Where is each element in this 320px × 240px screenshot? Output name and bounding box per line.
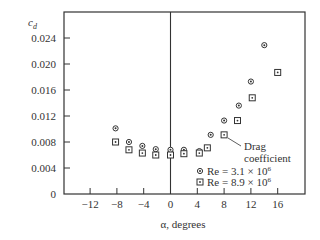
y-tick-label: 0.004 xyxy=(31,162,56,174)
data-point xyxy=(126,139,131,144)
data-point xyxy=(140,143,145,148)
data-point xyxy=(221,132,227,138)
y-tick-label: 0.008 xyxy=(31,136,56,148)
y-axis-title: cd xyxy=(28,16,38,31)
x-tick-label: −12 xyxy=(81,198,98,210)
circle-dot-marker-icon xyxy=(197,168,202,173)
x-axis: −12−8−40481216 xyxy=(81,188,283,210)
legend-label: Re = 8.9 × 106 xyxy=(207,176,271,188)
y-tick-label: 0.024 xyxy=(31,32,56,44)
legend-item-re-8.9: Re = 8.9 × 106 xyxy=(197,176,271,188)
y-tick-label: 0.012 xyxy=(31,110,56,122)
data-point xyxy=(262,43,267,48)
data-point xyxy=(153,147,158,152)
data-point xyxy=(249,95,255,101)
data-point xyxy=(235,118,241,124)
y-tick-label: 0.020 xyxy=(31,58,56,70)
series-circle-dot xyxy=(113,43,267,154)
data-point xyxy=(196,150,202,156)
data-point xyxy=(275,69,281,75)
data-point xyxy=(168,152,174,158)
x-axis-title: α, degrees xyxy=(161,218,206,230)
x-tick-label: 8 xyxy=(221,198,227,210)
x-tick-label: 0 xyxy=(168,198,174,210)
y-tick-label: 0.016 xyxy=(31,84,56,96)
drag-coefficient-chart: 00.0040.0080.0120.0160.0200.024 −12−8−40… xyxy=(0,0,320,240)
y-tick-label: 0 xyxy=(51,188,57,200)
data-point xyxy=(113,139,119,145)
legend: Re = 3.1 × 106 Re = 8.9 × 106 xyxy=(197,165,271,188)
data-point xyxy=(222,118,227,123)
annotation-line-1: Drag xyxy=(244,140,266,152)
data-point xyxy=(204,145,210,151)
drag-coefficient-annotation: Drag coefficient xyxy=(228,138,291,164)
data-point xyxy=(126,147,132,153)
data-point xyxy=(139,150,145,156)
data-point xyxy=(236,103,241,108)
x-tick-label: 4 xyxy=(195,198,201,210)
data-point xyxy=(248,79,253,84)
annotation-line-2: coefficient xyxy=(244,152,291,164)
data-point xyxy=(181,151,187,157)
data-point xyxy=(113,126,118,131)
annotation-leader-line xyxy=(228,138,241,146)
x-tick-label: −8 xyxy=(111,198,123,210)
x-tick-label: 16 xyxy=(272,198,284,210)
data-point xyxy=(208,132,213,137)
data-point xyxy=(153,152,159,158)
x-tick-label: 12 xyxy=(245,198,256,210)
square-dot-marker-icon xyxy=(197,179,203,185)
x-tick-label: −4 xyxy=(138,198,150,210)
